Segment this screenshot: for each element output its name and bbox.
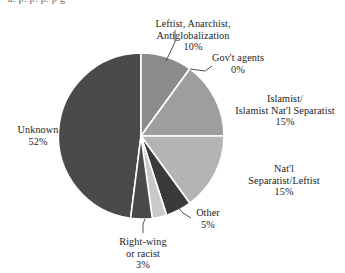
label-leftist-line1: Leftist, Anarchist, — [128, 18, 258, 30]
label-islamist-line2: Islamist Nat'l Separatist — [225, 105, 345, 117]
label-other-percent: 5% — [180, 219, 236, 231]
label-islamist: Islamist/ Islamist Nat'l Separatist 15% — [225, 93, 345, 128]
label-unknown-percent: 52% — [4, 136, 72, 148]
label-unknown-name: Unknown — [4, 124, 72, 136]
leader-line-right-wing — [143, 219, 145, 233]
label-natsep-line1: Nat'l — [225, 163, 343, 175]
label-natsep-line2: Separatist/Leftist — [225, 175, 343, 187]
label-govt-agents-name: Gov't agents — [188, 52, 288, 64]
label-rightwing-line1: Right-wing — [96, 236, 190, 248]
label-islamist-line1: Islamist/ — [225, 93, 345, 105]
pie-chart-figure: a. p. p. p. p g Leftist, Anarchist, Anti… — [0, 0, 345, 273]
label-rightwing-percent: 3% — [96, 259, 190, 271]
label-leftist-anarchist-antiglobalization: Leftist, Anarchist, Antiglobalization 10… — [128, 18, 258, 53]
label-leftist-line2: Antiglobalization — [128, 30, 258, 42]
label-natl-separatist-leftist: Nat'l Separatist/Leftist 15% — [225, 163, 343, 198]
label-other: Other 5% — [180, 207, 236, 230]
label-natsep-percent: 15% — [225, 186, 343, 198]
label-unknown: Unknown 52% — [4, 124, 72, 147]
label-islamist-percent: 15% — [225, 116, 345, 128]
label-rightwing-line2: or racist — [96, 248, 190, 260]
label-other-name: Other — [180, 207, 236, 219]
label-right-wing-or-racist: Right-wing or racist 3% — [96, 236, 190, 271]
label-govt-agents-percent: 0% — [188, 64, 288, 76]
label-govt-agents: Gov't agents 0% — [188, 52, 288, 75]
